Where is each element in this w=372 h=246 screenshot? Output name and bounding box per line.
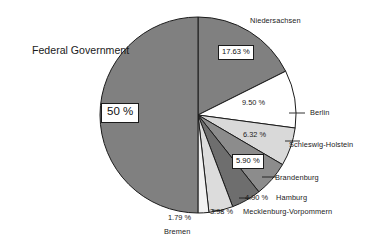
hamburg-label: Hamburg — [276, 194, 307, 201]
schleswig-holstein-value: 6.32 % — [243, 131, 266, 138]
schleswig-holstein-label: Schleswig-Holstein — [289, 141, 353, 148]
federal-government-label: Federal Government — [32, 45, 129, 56]
berlin-label: Berlin — [310, 109, 330, 116]
mecklenburg-label: Mecklenburg-Vorpommern — [243, 208, 332, 215]
brandenburg-label: Brandenburg — [275, 174, 319, 181]
berlin-value: 9.50 % — [242, 99, 265, 106]
niedersachsen-value: 17.63 % — [218, 45, 254, 60]
pie-chart: Federal Government 50 % Niedersachsen 17… — [0, 0, 372, 246]
hamburg-value: 4.90 % — [245, 194, 268, 201]
niedersachsen-label: Niedersachsen — [250, 17, 301, 24]
federal-government-value: 50 % — [101, 103, 139, 123]
mecklenburg-value: 3.98 % — [210, 208, 233, 215]
bremen-value: 1.79 % — [168, 214, 191, 221]
brandenburg-value: 5.90 % — [232, 154, 264, 169]
bremen-label: Bremen — [164, 228, 190, 235]
